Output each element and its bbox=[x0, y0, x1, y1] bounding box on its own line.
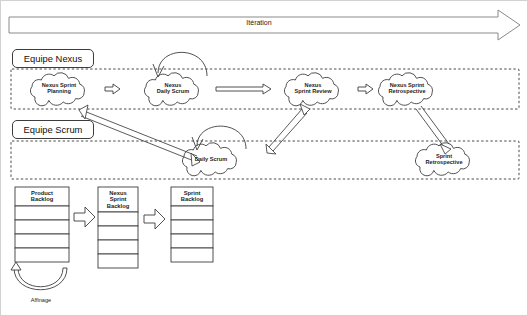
connector-dailyscrum-to-review bbox=[266, 104, 310, 154]
arrow-affinage-loop bbox=[11, 262, 67, 290]
team-tag-nexus-label: Equipe Nexus bbox=[24, 53, 82, 64]
cloud-nexus-sprint-retrospective bbox=[378, 73, 432, 106]
cloud-nexus-sprint-review bbox=[284, 73, 338, 106]
diagram-canvas: Itération Equipe Nexus Equipe Scrum Nexu… bbox=[0, 0, 528, 316]
cloud-nexus-daily-scrum bbox=[144, 73, 198, 106]
arrow-product-to-nexus-backlog bbox=[74, 207, 95, 227]
arrow-review-to-retrospective bbox=[358, 84, 373, 94]
loop-arrow-nexus-daily-scrum bbox=[153, 52, 207, 77]
iteration-arrow bbox=[9, 10, 520, 40]
table-product-backlog bbox=[15, 187, 69, 262]
cloud-nexus-sprint-planning bbox=[30, 73, 84, 106]
arrow-planning-to-daily bbox=[105, 84, 120, 94]
table-nexus-sprint-backlog bbox=[98, 187, 138, 268]
team-tag-scrum-label: Equipe Scrum bbox=[24, 124, 83, 135]
table-sprint-backlog bbox=[171, 187, 213, 262]
arrow-daily-to-review bbox=[216, 84, 271, 94]
connector-planning-to-dailyscrum bbox=[79, 105, 200, 166]
arrow-nexus-to-sprint-backlog bbox=[144, 209, 165, 229]
team-tag-nexus[interactable]: Equipe Nexus bbox=[12, 49, 94, 68]
team-tag-scrum[interactable]: Equipe Scrum bbox=[12, 120, 94, 139]
